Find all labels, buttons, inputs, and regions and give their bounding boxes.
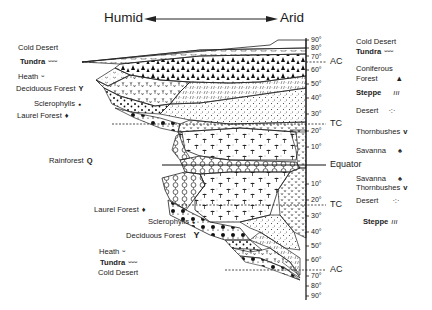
lat-tick: 40° — [311, 94, 322, 102]
heath-icon: ᵕ — [41, 72, 44, 81]
lat-tick: 20° — [311, 127, 322, 135]
tundra-icon: ᵕᵕᵕ — [48, 57, 57, 66]
legend-text: Heath — [99, 247, 119, 256]
legend-text: Coniferous — [356, 64, 393, 73]
lat-tick: 70° — [311, 53, 322, 61]
legend-text: Tundra — [20, 57, 45, 66]
equator-label: Equator — [330, 159, 362, 169]
deciduous-icon: Y — [79, 84, 84, 93]
legend-sclerophylls-n: Sclerophylls● — [34, 99, 81, 109]
lat-tick: 10° — [311, 143, 322, 151]
arctic-circle-south-label: AC — [330, 264, 343, 274]
tropic-north-label: TC — [330, 118, 342, 128]
legend-laurel-s: Laurel Forest♦ — [94, 205, 146, 214]
lat-tick: 80° — [311, 44, 322, 52]
lat-tick: 30° — [311, 212, 322, 220]
svg-text:ᵕ: ᵕ — [278, 257, 280, 263]
arctic-circle-north-label: AC — [330, 56, 343, 66]
lat-tick: 60° — [311, 66, 322, 74]
legend-text: Thornbushes — [356, 183, 400, 192]
legend-text: Thornbushes — [356, 127, 400, 136]
legend-desert-r: Desert·:· — [356, 106, 395, 115]
legend-savanna-rs: Savanna♠ — [356, 174, 402, 183]
sclerophyll-icon: ● — [78, 101, 81, 107]
legend-text: Forest — [356, 74, 378, 83]
legend-text: Deciduous Forest — [126, 231, 186, 240]
heath-icon: ᵕ — [122, 247, 125, 256]
legend-heath-n: Heathᵕ — [18, 72, 44, 81]
legend-tundra-r: Tundraᵕᵕᵕ — [356, 47, 393, 56]
legend-text: Steppe — [363, 217, 388, 226]
legend-steppe-rs: Steppeııı — [363, 217, 398, 226]
legend-text: Laurel Forest — [17, 111, 62, 120]
legend-text: Cold Desert — [18, 43, 58, 52]
legend-cold-desert-r: Cold Desert — [356, 37, 396, 46]
legend-steppe-r: Steppeııı — [356, 88, 400, 97]
savanna-icon: ♠ — [398, 146, 402, 155]
legend-text: Cold Desert — [98, 268, 138, 277]
legend-text: Heath — [18, 72, 38, 81]
legend-text: Savanna — [356, 146, 386, 155]
legend-thornbushes-rs: Thornbushesv — [356, 183, 408, 192]
legend-tundra-s: Tundraᵕᵕᵕ — [100, 258, 137, 267]
coniferous-icon: ▲ — [396, 74, 403, 83]
lat-tick: 90° — [311, 36, 322, 44]
lat-tick: 30° — [311, 110, 322, 118]
laurel-icon: ♦ — [142, 205, 146, 214]
legend-text: Laurel Forest — [94, 205, 139, 214]
svg-text:ᵕᵕ: ᵕᵕ — [284, 271, 288, 277]
thornbush-icon: v — [403, 127, 407, 136]
lat-tick: 60° — [311, 256, 322, 264]
lat-tick: 50° — [311, 80, 322, 88]
savanna-icon: ♠ — [398, 174, 402, 183]
tropic-south-label: TC — [330, 199, 342, 209]
desert-icon: ·:· — [392, 196, 399, 205]
lat-tick: 10° — [311, 180, 322, 188]
legend-text: Deciduous Forest — [16, 84, 76, 93]
steppe-icon: ııı — [391, 217, 397, 226]
steppe-icon: ııı — [393, 88, 399, 97]
legend-text: Desert — [356, 106, 378, 115]
legend-forest-r: Forest▲ — [356, 74, 403, 83]
legend-sclerophylls-s: Sclerophylls● — [148, 217, 195, 227]
lat-tick: 70° — [311, 272, 322, 280]
tundra-icon: ᵕᵕᵕ — [384, 47, 393, 56]
legend-text: Steppe — [356, 88, 381, 97]
legend-coniferous-r: Coniferous — [356, 64, 393, 73]
legend-text: Tundra — [100, 258, 125, 267]
legend-text: Desert — [356, 196, 378, 205]
legend-cold-desert-s: Cold Desert — [98, 268, 138, 277]
lat-tick: 20° — [311, 196, 322, 204]
legend-text: Tundra — [356, 47, 381, 56]
laurel-icon: ♦ — [65, 111, 69, 120]
thornbush-icon: v — [403, 183, 407, 192]
legend-text: Rainforest — [49, 156, 84, 165]
legend-text: Sclerophylls — [34, 99, 75, 108]
tundra-icon: ᵕᵕᵕ — [128, 258, 137, 267]
legend-text: Cold Desert — [356, 37, 396, 46]
legend-cold-desert-n: Cold Desert — [18, 43, 58, 52]
rainforest-icon: Q — [87, 156, 93, 165]
legend-text: Savanna — [356, 174, 386, 183]
lat-tick: 50° — [311, 242, 322, 250]
desert-icon: ·:· — [388, 106, 395, 115]
legend-savanna-r: Savanna♠ — [356, 146, 402, 155]
legend-rainforest: RainforestQ — [49, 156, 92, 165]
legend-deciduous-n: Deciduous ForestY — [16, 84, 84, 93]
legend-heath-s: Heathᵕ — [99, 247, 125, 256]
legend-desert-rs: Desert·:· — [356, 196, 399, 205]
legend-thornbushes-r: Thornbushesv — [356, 127, 408, 136]
legend-deciduous-s: Deciduous ForestY — [126, 231, 200, 240]
deciduous-icon: Y — [194, 230, 200, 240]
legend-text: Sclerophylls — [148, 217, 189, 226]
sclerophyll-icon: ● — [192, 219, 195, 225]
lat-tick: 80° — [311, 282, 322, 290]
lat-tick: 40° — [311, 228, 322, 236]
legend-laurel-n: Laurel Forest♦ — [17, 111, 69, 120]
lat-tick: 90° — [311, 292, 322, 300]
legend-tundra-n: Tundraᵕᵕᵕ — [20, 57, 57, 66]
